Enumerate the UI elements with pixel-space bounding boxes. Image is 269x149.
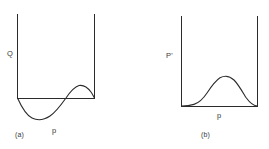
panel-a-group [17,14,95,120]
figure-container: Q p (a) P' p (b) [0,0,269,149]
panel-a-curve [18,85,95,119]
panel-b-group [181,16,258,107]
panel-b-curve [182,76,258,106]
panel-b-y-axis-label: P' [166,52,173,60]
panel-a-x-axis-label: p [52,127,56,135]
panel-b-x-axis-label: p [217,112,221,120]
panel-a-caption: (a) [15,131,24,138]
panel-a-y-axis-label: Q [7,50,13,58]
panel-b-caption: (b) [201,131,210,138]
figure-svg [0,0,269,149]
